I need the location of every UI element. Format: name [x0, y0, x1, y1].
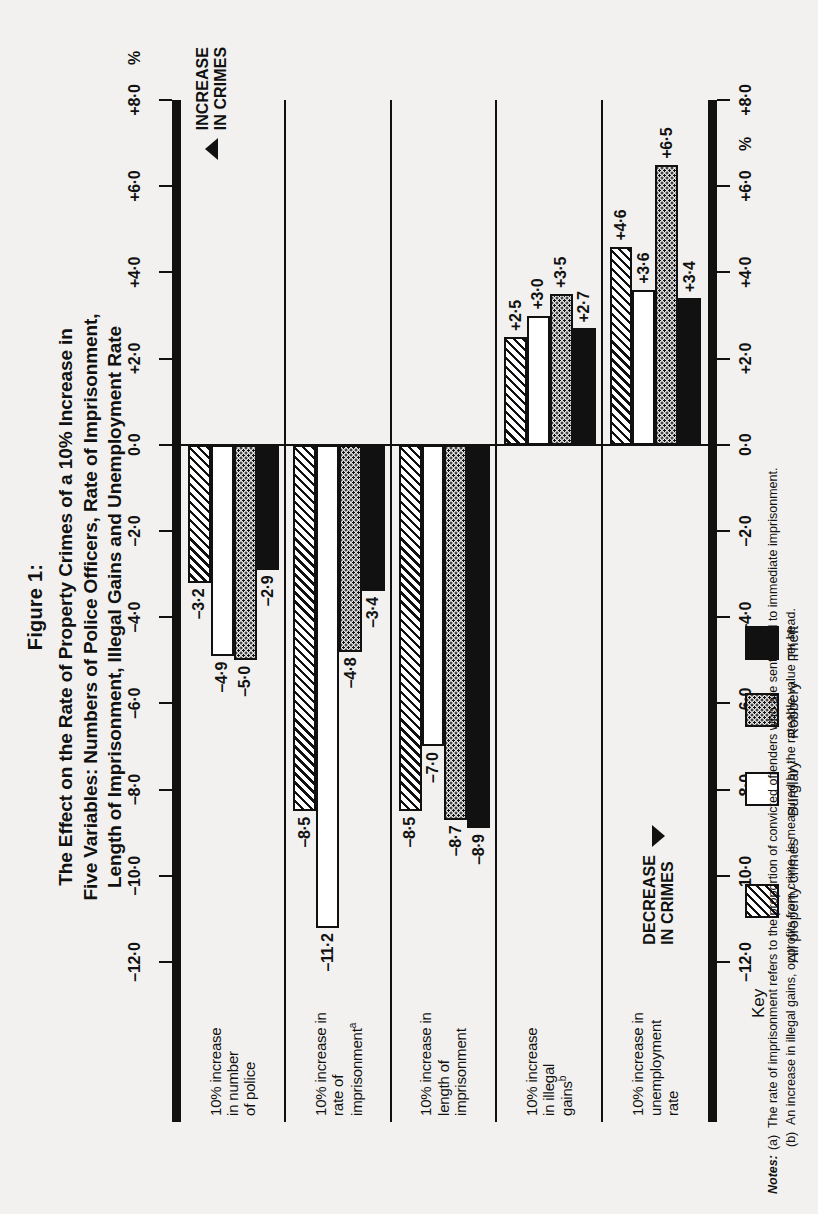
bar-row: +2·7: [573, 100, 596, 962]
figure-page: Figure 1: The Effect on the Rate of Prop…: [0, 0, 818, 1214]
bar: [339, 445, 362, 652]
bar-row: +3·0: [527, 100, 550, 962]
bar-value-label: –4·8: [342, 658, 360, 688]
note-key: (b): [782, 1125, 800, 1147]
note-key: (a): [764, 1128, 782, 1150]
axis-tick: [717, 444, 730, 446]
axis-rule-bottom: [708, 100, 717, 1122]
title-line-2: Five Variables: Numbers of Police Office…: [79, 0, 104, 1214]
figure-canvas: Figure 1: The Effect on the Rate of Prop…: [0, 0, 818, 1214]
bar-value-label: +3·5: [552, 257, 570, 288]
bar-track: –8·5–7·0–8·7–8·9: [392, 100, 495, 962]
increase-in-crimes-annotation: INCREASE IN CRIMES: [194, 47, 230, 161]
bar-row: –11·2: [316, 100, 339, 962]
decrease-line-2: IN CRIMES: [659, 855, 677, 945]
axis-tick-label: –2·0: [126, 516, 144, 547]
axis-tick: [717, 358, 730, 360]
note-row: (b) An increase in illegal gains, or pro…: [782, 14, 800, 1194]
axis-tick-label: +4·0: [737, 257, 755, 288]
bar-row: +3·4: [678, 100, 701, 962]
axis-tick: [717, 99, 730, 101]
bar: [610, 247, 633, 445]
axis-tick: [717, 271, 730, 273]
bar-group-label: 10% increase inrate ofimprisonmenta: [312, 966, 365, 1116]
note-text: An increase in illegal gains, or profits…: [782, 608, 800, 1125]
bar-row: +4·6: [610, 100, 633, 962]
bar-row: –8·5: [293, 100, 316, 962]
axis-tick: [159, 702, 172, 704]
bar: [422, 445, 445, 747]
axis-tick: [159, 271, 172, 273]
axis-unit-bottom: %: [737, 137, 755, 151]
axis-tick: [717, 961, 730, 963]
bar-value-label: +2·7: [575, 292, 593, 323]
bar: [316, 445, 339, 928]
bar-row: +2·5: [504, 100, 527, 962]
bar-value-label: +3·4: [681, 261, 699, 292]
axis-rule-top: [172, 100, 181, 1122]
bar: [234, 445, 257, 661]
axis-tick: [159, 185, 172, 187]
axis-tick: [159, 961, 172, 963]
axis-tick-label: +2·0: [126, 343, 144, 374]
bar: [211, 445, 234, 656]
bar-value-label: +3·6: [635, 253, 653, 284]
bar: [257, 445, 280, 570]
axis-tick-label: +8·0: [737, 84, 755, 115]
bar-track: +2·5+3·0+3·5+2·7: [497, 100, 600, 962]
axis-tick: [717, 875, 730, 877]
axis-tick-label: +6·0: [737, 171, 755, 202]
bar-row: –8·5: [399, 100, 422, 962]
axis-tick-label: 0·0: [737, 434, 755, 456]
bar-groups: 10% increasein numberof police–3·2–4·9–5…: [181, 100, 708, 1122]
bar-row: –3·4: [362, 100, 385, 962]
bar-value-label: –8·7: [447, 826, 465, 856]
bar: [293, 445, 316, 811]
bar-row: –4·8: [339, 100, 362, 962]
bar-row: –7·0: [422, 100, 445, 962]
axis-tick-label: –2·0: [737, 516, 755, 547]
bar-value-label: +6·5: [658, 128, 676, 159]
bar-row: –4·9: [211, 100, 234, 962]
bar-row: –8·9: [467, 100, 490, 962]
bar-row: –3·2: [188, 100, 211, 962]
bar-group-label: 10% increase inlength ofimprisonment: [418, 966, 470, 1116]
bar-value-label: –4·9: [213, 662, 231, 692]
axis-tick: [717, 702, 730, 704]
bar-value-label: –8·5: [401, 817, 419, 847]
axis-tick: [159, 875, 172, 877]
arrow-up-icon: [205, 138, 218, 160]
bar-group-label: 10% increasein numberof police: [207, 966, 259, 1116]
bar-group: 10% increase inlength ofimprisonment–8·5…: [392, 100, 497, 1122]
axis-tick: [717, 616, 730, 618]
bar-value-label: –8·9: [470, 834, 488, 864]
axis-tick-label: +2·0: [737, 343, 755, 374]
axis-tick-label: +8·0: [126, 84, 144, 115]
bar-value-label: –11·2: [319, 934, 337, 972]
bar: [573, 328, 596, 444]
axis-tick: [159, 358, 172, 360]
axis-tick-label: +6·0: [126, 171, 144, 202]
note-text: The rate of imprisonment refers to the p…: [764, 468, 782, 1129]
axis-tick: [159, 530, 172, 532]
axis-tick-label: –8·0: [126, 774, 144, 805]
bar: [655, 165, 678, 445]
bar-value-label: –3·2: [190, 589, 208, 619]
bar: [467, 445, 490, 829]
axis-tick-label: –10·0: [126, 856, 144, 895]
bar: [399, 445, 422, 811]
bar: [550, 294, 573, 445]
bar-group: 10% increasein illegalgainsb+2·5+3·0+3·5…: [497, 100, 602, 1122]
axis-tick: [717, 530, 730, 532]
increase-line-2: IN CRIMES: [212, 47, 230, 131]
title-block: Figure 1: The Effect on the Rate of Prop…: [24, 0, 128, 1214]
bar: [362, 445, 385, 592]
bar: [188, 445, 211, 583]
bar-row: –8·7: [444, 100, 467, 962]
notes-block: Notes: (a) The rate of imprisonment refe…: [764, 14, 800, 1194]
increase-line-1: INCREASE: [194, 47, 212, 131]
bar-group: 10% increase inunemploymentrate+4·6+3·6+…: [603, 100, 708, 1122]
bar-group: 10% increase inrate ofimprisonmenta–8·5–…: [286, 100, 391, 1122]
bar-value-label: –5·0: [236, 666, 254, 696]
decrease-in-crimes-annotation: DECREASE IN CRIMES: [641, 825, 677, 945]
